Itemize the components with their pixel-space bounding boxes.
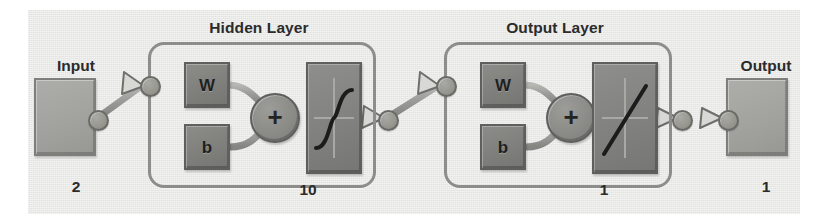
output-weight-block: W bbox=[480, 62, 526, 108]
output-bias-label: b bbox=[498, 139, 508, 156]
output-activation-linear-icon bbox=[592, 62, 658, 174]
hidden-sum-node: + bbox=[250, 93, 300, 143]
hidden-layer-count-label: 10 bbox=[278, 181, 338, 199]
hidden-activation-sigmoid-icon bbox=[306, 62, 362, 174]
input-count-label: 2 bbox=[32, 178, 120, 196]
hidden-bias-label: b bbox=[202, 139, 212, 156]
neural-network-diagram: Hidden Layer Output Layer Input Output W… bbox=[0, 0, 830, 224]
hidden-sum-label: + bbox=[267, 104, 282, 130]
output-exit-junction-node bbox=[672, 110, 693, 131]
output-layer-count-label: 1 bbox=[574, 181, 634, 199]
input-junction-node bbox=[88, 110, 109, 131]
hidden-layer-title: Hidden Layer bbox=[148, 19, 370, 37]
output-count-label: 1 bbox=[722, 178, 810, 196]
input-block bbox=[34, 78, 96, 156]
hidden-bias-block: b bbox=[184, 124, 230, 170]
output-weight-label: W bbox=[495, 77, 511, 94]
output-sum-node: + bbox=[546, 93, 596, 143]
input-title: Input bbox=[32, 57, 120, 75]
output-entry-junction-node bbox=[436, 76, 457, 97]
hidden-weight-block: W bbox=[184, 62, 230, 108]
output-bias-block: b bbox=[480, 124, 526, 170]
output-sum-label: + bbox=[563, 104, 578, 130]
hidden-weight-label: W bbox=[199, 77, 215, 94]
hidden-exit-junction-node bbox=[378, 110, 399, 131]
final-junction-node bbox=[718, 110, 739, 131]
output-layer-title: Output Layer bbox=[444, 19, 666, 37]
hidden-entry-junction-node bbox=[140, 76, 161, 97]
output-title: Output bbox=[722, 57, 810, 75]
